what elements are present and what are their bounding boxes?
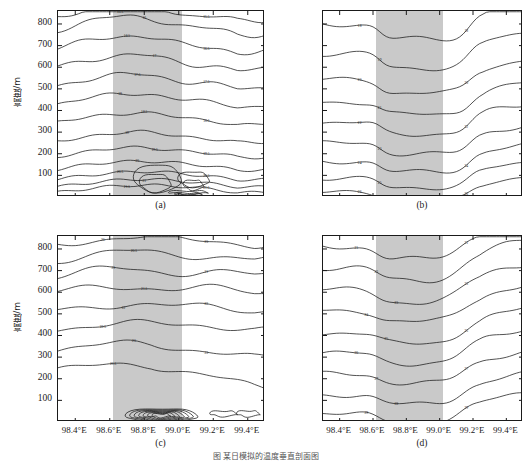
y-axis-label: 高度/m (10, 302, 23, 332)
panel-label-d: (d) (402, 438, 442, 448)
plot-area-a: 15.515.51616.516.51717.517.51818.518.519… (57, 10, 264, 196)
x-tick-label: 99.4°E (481, 425, 529, 435)
axis-ticks-b (323, 11, 522, 196)
y-tick-label: 200 (25, 372, 52, 382)
plot-area-c: 202020.5212121.5222222.5232323.5 (57, 235, 264, 421)
panel-label-a: (a) (141, 200, 181, 210)
figure-caption: 图 某日模拟的温度垂直剖面图 (0, 450, 532, 461)
y-tick-label: 300 (25, 125, 52, 135)
y-tick-label: 500 (25, 82, 52, 92)
y-tick-label: 800 (25, 242, 52, 252)
x-tick-label: 99.4°E (223, 425, 271, 435)
y-tick-label: 800 (25, 17, 52, 27)
y-tick-label: 600 (25, 60, 52, 70)
panel-label-b: (b) (402, 200, 442, 210)
panel-label-c: (c) (141, 438, 181, 448)
y-tick-label: 600 (25, 285, 52, 295)
y-tick-label: 700 (25, 264, 52, 274)
axis-ticks-d (323, 236, 522, 421)
axis-ticks-c (58, 236, 264, 421)
y-tick-label: 400 (25, 103, 52, 113)
figure-container: 15.515.51616.516.51717.517.51818.518.519… (0, 0, 532, 463)
y-tick-label: 100 (25, 393, 52, 403)
y-tick-label: 200 (25, 147, 52, 157)
y-tick-label: 400 (25, 328, 52, 338)
plot-area-d: 2121222323242525262727282929 (322, 235, 522, 421)
plot-area-b: 1818192020212222232424252626 (322, 10, 522, 196)
axis-ticks-a (58, 11, 264, 196)
y-tick-label: 700 (25, 39, 52, 49)
y-tick-label: 500 (25, 307, 52, 317)
y-axis-label: 高度/m (10, 77, 23, 107)
y-tick-label: 100 (25, 168, 52, 178)
y-tick-label: 300 (25, 350, 52, 360)
